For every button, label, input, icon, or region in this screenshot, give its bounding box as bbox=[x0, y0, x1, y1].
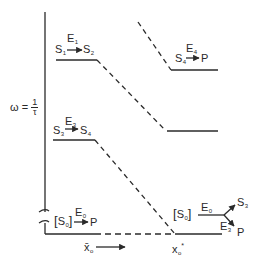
level-3-dashed-slope bbox=[95, 140, 175, 234]
level-4-dashed-slope bbox=[138, 22, 171, 70]
level-3-product: S4 bbox=[80, 125, 91, 137]
level-1-product: S2 bbox=[83, 44, 94, 56]
bottom-left-product: P bbox=[90, 217, 97, 228]
axis-break-mark-bottom bbox=[39, 221, 49, 223]
bottom-right-branch-enzyme: E3 bbox=[220, 221, 231, 233]
level-4-enzyme: E4 bbox=[186, 43, 197, 55]
level-1-enzyme: E1 bbox=[67, 33, 78, 45]
level-3-enzyme: E3 bbox=[65, 116, 76, 128]
x-axis-mean-label: x̄o bbox=[84, 242, 93, 254]
bottom-right-species: [S0] bbox=[173, 207, 191, 221]
x-axis-critical-label: xo* bbox=[172, 242, 184, 256]
bottom-left-species: [S0] bbox=[54, 214, 72, 228]
level-4-product: P bbox=[201, 53, 208, 64]
bottom-left-enzyme: E0 bbox=[75, 207, 86, 219]
fraction: 1 τ bbox=[31, 98, 38, 118]
fraction-denominator: τ bbox=[33, 108, 37, 118]
axis-break-mark-top bbox=[39, 210, 49, 212]
bottom-right-enzyme: E0 bbox=[201, 202, 212, 214]
omega-symbol: ω bbox=[10, 101, 19, 113]
equals-sign: = bbox=[22, 101, 28, 113]
level-3-reactant: S3 bbox=[53, 125, 64, 137]
bottom-right-branch-product: P bbox=[237, 227, 244, 238]
bottom-right-branch-upper: S3 bbox=[237, 197, 248, 209]
level-1-dashed-slope bbox=[97, 60, 166, 131]
level-1-reactant: S1 bbox=[55, 44, 66, 56]
level-4-reactant: S4 bbox=[175, 53, 186, 65]
branch-upper-arrow bbox=[224, 205, 235, 215]
y-axis-label: ω = 1 τ bbox=[10, 98, 38, 118]
